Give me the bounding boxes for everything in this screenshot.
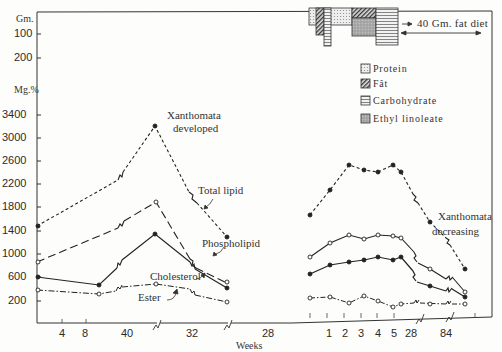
x-tick-84: 84 <box>440 327 452 339</box>
x-tick-1: 1 <box>326 327 332 339</box>
annotation-xanthomata-developed-1: Xanthomata <box>167 109 221 121</box>
x-tick-2: 2 <box>342 327 348 339</box>
series-label-total-lipid: Total lipid <box>198 184 243 196</box>
y-tick-1000: 1000 <box>2 247 26 259</box>
diet-bars <box>309 8 398 46</box>
legend-label-carbohydrate: Carbohydrate <box>373 95 437 106</box>
x-tick-28-right: 28 <box>405 327 417 339</box>
annotation-xanthomata-developed-2: developed <box>173 122 218 134</box>
series-ester-right <box>310 296 465 307</box>
series-label-ester: Ester <box>138 291 161 303</box>
y-tick-1400: 1400 <box>2 224 26 236</box>
x-tick-40: 40 <box>121 327 133 339</box>
y-tick-600: 600 <box>8 270 26 282</box>
x-tick-4: 4 <box>59 327 65 339</box>
chart-canvas <box>0 0 502 352</box>
y-tick-1800: 1800 <box>2 200 26 212</box>
x-ticks <box>62 313 475 323</box>
legend-swatch-fat <box>361 79 370 88</box>
y-tick-3400: 3400 <box>2 108 26 120</box>
x-tick-32: 32 <box>186 327 198 339</box>
series-ester-left <box>37 284 227 302</box>
legend-swatch-ethyl-linoleate <box>361 114 370 123</box>
series-phospholipid-right <box>310 235 465 292</box>
series-total-lipid-left <box>37 126 227 237</box>
y-upper-tick-100: 100 <box>14 27 32 39</box>
y-tick-2600: 2600 <box>2 154 26 166</box>
legend-swatches <box>361 64 370 123</box>
x-axis-label: Weeks <box>236 340 262 351</box>
chart-frame <box>37 11 492 323</box>
series-label-cholesterol: Cholesterol <box>150 270 201 282</box>
legend-label-fat: Fât <box>373 78 388 89</box>
x-tick-8: 8 <box>82 327 88 339</box>
x-tick-5: 5 <box>391 327 397 339</box>
legend-label-protein: Protein <box>373 63 408 74</box>
y-upper-tick-200: 200 <box>14 51 32 63</box>
annotation-xanthomata-decreasing-1: Xanthomata <box>438 210 492 222</box>
legend-swatch-protein <box>361 64 370 73</box>
x-tick-28-left: 28 <box>262 327 274 339</box>
y-tick-2200: 2200 <box>2 177 26 189</box>
y-tick-3000: 3000 <box>2 131 26 143</box>
legend-label-ethyl-linoleate: Ethyl linoleate <box>373 113 444 124</box>
legend-swatch-carbohydrate <box>361 96 370 105</box>
annotation-fat-diet: 40 Gm. fat diet <box>417 17 488 29</box>
series-cholesterol-right <box>310 257 465 297</box>
annotation-xanthomata-decreasing-2: decreasing <box>432 225 479 237</box>
y-axis-unit-label: Mg.% <box>14 84 39 95</box>
annotation-arrows <box>167 199 224 300</box>
x-tick-4-right: 4 <box>375 327 381 339</box>
x-tick-3: 3 <box>358 327 364 339</box>
y-upper-unit-label: Gm. <box>16 13 34 24</box>
series-label-phospholipid: Phospholipid <box>202 237 260 249</box>
y-tick-200: 200 <box>8 294 26 306</box>
